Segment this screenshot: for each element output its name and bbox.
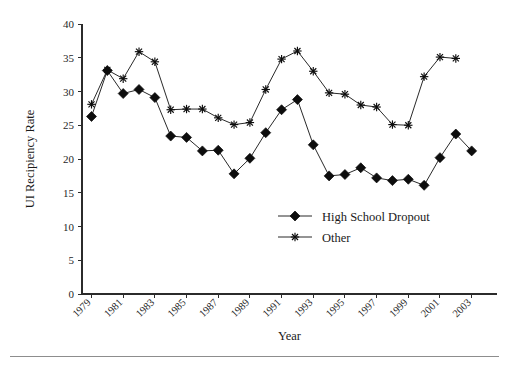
line-chart: 0510152025303540197919811983198519871989…: [0, 0, 509, 370]
data-point-star: [341, 90, 349, 98]
data-point-diamond: [87, 111, 97, 121]
y-tick-label: 30: [63, 86, 75, 98]
data-point-star: [167, 106, 175, 114]
data-point-diamond: [387, 176, 397, 186]
x-tick-label: 1987: [197, 297, 220, 320]
data-point-diamond: [213, 145, 223, 155]
series-2: [87, 47, 460, 130]
data-point-star: [87, 100, 95, 108]
data-point-star: [214, 114, 222, 122]
data-point-diamond: [324, 171, 334, 181]
data-point-diamond: [166, 131, 176, 141]
y-tick-label: 25: [63, 119, 75, 131]
data-point-diamond: [292, 95, 302, 105]
x-tick-label: 2001: [419, 297, 442, 320]
data-point-star: [372, 103, 380, 111]
legend-item-1: High School Dropout: [278, 210, 430, 224]
data-point-diamond: [290, 211, 300, 221]
y-tick-label: 0: [69, 288, 75, 300]
y-tick-label: 10: [63, 221, 75, 233]
data-point-diamond: [277, 105, 287, 115]
x-tick-label: 1983: [134, 297, 157, 320]
data-point-diamond: [356, 163, 366, 173]
data-point-diamond: [435, 153, 445, 163]
data-point-star: [262, 85, 270, 93]
series-line-2: [92, 51, 456, 125]
x-tick-label: 1985: [165, 297, 188, 320]
data-point-diamond: [150, 93, 160, 103]
data-point-star: [182, 105, 190, 113]
data-point-star: [420, 72, 428, 80]
data-point-star: [436, 53, 444, 61]
x-tick-label: 2003: [450, 297, 473, 320]
series-line-1: [92, 71, 472, 186]
data-point-star: [404, 121, 412, 129]
x-tick-label: 1989: [229, 297, 252, 320]
y-tick-label: 35: [63, 52, 75, 64]
y-tick-label: 15: [63, 187, 75, 199]
x-tick-label: 1995: [324, 297, 347, 320]
data-point-star: [357, 101, 365, 109]
y-tick-label: 5: [69, 254, 75, 266]
legend-label: High School Dropout: [322, 210, 430, 224]
data-point-diamond: [340, 170, 350, 180]
data-point-star: [277, 55, 285, 63]
data-point-star: [325, 89, 333, 97]
data-point-star: [246, 118, 254, 126]
data-point-star: [198, 105, 206, 113]
data-point-diamond: [403, 174, 413, 184]
data-point-star: [151, 58, 159, 66]
legend-label: Other: [322, 231, 351, 245]
data-point-star: [119, 74, 127, 82]
data-point-diamond: [419, 180, 429, 190]
x-tick-label: 1979: [70, 297, 93, 320]
footer-rule: [10, 356, 499, 357]
data-point-diamond: [118, 89, 128, 99]
x-tick-label: 1991: [260, 297, 283, 320]
data-point-diamond: [261, 128, 271, 138]
data-point-star: [309, 67, 317, 75]
y-tick-label: 40: [63, 18, 75, 30]
data-point-diamond: [308, 140, 318, 150]
x-axis-title: Year: [278, 329, 302, 343]
x-tick-label: 1981: [102, 297, 125, 320]
x-tick-label: 1997: [355, 297, 378, 320]
x-tick-label: 1993: [292, 297, 315, 320]
data-point-diamond: [372, 173, 382, 183]
y-tick-label: 20: [63, 153, 75, 165]
legend-item-2: Other: [278, 231, 351, 245]
y-axis-title: UI Recipiency Rate: [23, 109, 37, 208]
data-point-star: [388, 120, 396, 128]
x-tick-label: 1999: [387, 297, 410, 320]
data-point-star: [103, 66, 111, 74]
data-point-star: [293, 47, 301, 55]
data-point-star: [452, 54, 460, 62]
series-1: [87, 66, 477, 191]
data-point-star: [135, 47, 143, 55]
data-point-star: [291, 233, 299, 241]
chart-figure: 0510152025303540197919811983198519871989…: [0, 0, 509, 370]
data-point-diamond: [134, 84, 144, 94]
data-point-star: [230, 120, 238, 128]
